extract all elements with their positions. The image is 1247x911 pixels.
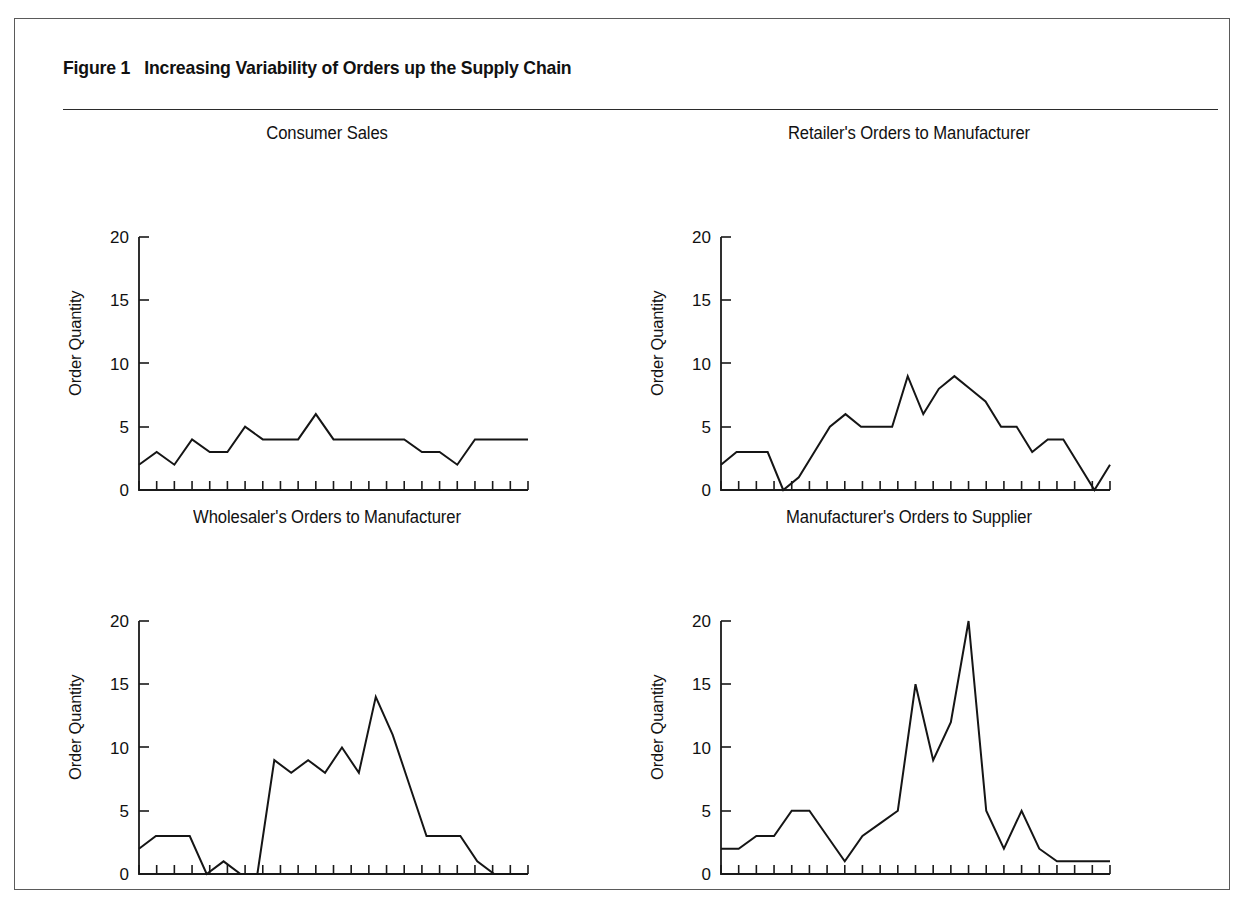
axes-0	[139, 237, 528, 490]
y-axis-label-0: Order Quantity	[66, 290, 84, 396]
data-series-wholesaler-orders	[139, 697, 528, 874]
figure-title-line: Figure 1Increasing Variability of Orders…	[63, 57, 1137, 79]
axes-2	[139, 621, 528, 874]
y-tick-20-3: 20	[692, 612, 711, 631]
chart-consumer-sales: Order Quantity 20 15 10 5 0 Time	[47, 151, 607, 501]
y-tick-20-0: 20	[110, 228, 129, 247]
y-axis-group-1: Order Quantity 20 15 10 5 0	[648, 228, 711, 500]
y-tick-15-2: 15	[110, 675, 129, 694]
chart-retailer-orders: Order Quantity 20 15 10 5 0 Time	[629, 151, 1189, 501]
y-tick-15-1: 15	[692, 291, 711, 310]
panel-retailer-orders: Retailer's Orders to Manufacturer Order …	[629, 123, 1189, 513]
x-ticks-3	[721, 865, 1110, 874]
y-tick-0-2: 0	[120, 865, 129, 884]
panel-manufacturer-orders: Manufacturer's Orders to Supplier Order …	[629, 507, 1189, 897]
axes-1	[721, 237, 1110, 490]
y-tick-0-0: 0	[120, 481, 129, 500]
axes-3	[721, 621, 1110, 874]
y-tick-20-2: 20	[110, 612, 129, 631]
y-tick-10-0: 10	[110, 355, 129, 374]
figure-title-text: Increasing Variability of Orders up the …	[144, 57, 571, 78]
y-axis-group-3: Order Quantity 20 15 10 5 0	[648, 612, 711, 884]
x-ticks-2	[139, 865, 528, 874]
panel-title-manufacturer-orders: Manufacturer's Orders to Supplier	[643, 507, 1175, 528]
panel-consumer-sales: Consumer Sales Order Quantity 20 15 10 5…	[47, 123, 607, 513]
figure-title-underline	[63, 109, 1218, 110]
y-ticks-0	[139, 237, 149, 427]
y-tick-20-1: 20	[692, 228, 711, 247]
panel-title-consumer-sales: Consumer Sales	[61, 123, 593, 144]
chart-manufacturer-orders: Order Quantity 20 15 10 5 0 Time	[629, 535, 1189, 885]
y-tick-15-0: 15	[110, 291, 129, 310]
figure-header: Figure 1Increasing Variability of Orders…	[63, 57, 1218, 95]
y-ticks-3	[721, 621, 731, 811]
y-axis-label-3: Order Quantity	[648, 674, 666, 780]
chart-wholesaler-orders: Order Quantity 20 15 10 5 0 Time	[47, 535, 607, 885]
y-ticks-2	[139, 621, 149, 811]
figure-number-label: Figure 1	[63, 57, 130, 78]
panel-grid: Consumer Sales Order Quantity 20 15 10 5…	[29, 119, 1245, 904]
y-ticks-1	[721, 237, 731, 427]
y-tick-5-2: 5	[120, 802, 129, 821]
data-series-manufacturer-orders	[721, 621, 1110, 861]
panel-wholesaler-orders: Wholesaler's Orders to Manufacturer Orde…	[47, 507, 607, 897]
y-tick-15-3: 15	[692, 675, 711, 694]
y-tick-10-2: 10	[110, 739, 129, 758]
y-tick-0-1: 0	[702, 481, 711, 500]
figure-frame: Figure 1Increasing Variability of Orders…	[14, 18, 1230, 890]
y-tick-10-3: 10	[692, 739, 711, 758]
y-axis-group-2: Order Quantity 20 15 10 5 0	[66, 612, 129, 884]
y-tick-5-0: 5	[120, 418, 129, 437]
panel-title-retailer-orders: Retailer's Orders to Manufacturer	[643, 123, 1175, 144]
y-tick-10-1: 10	[692, 355, 711, 374]
y-axis-label-2: Order Quantity	[66, 674, 84, 780]
y-tick-5-3: 5	[702, 802, 711, 821]
y-tick-0-3: 0	[702, 865, 711, 884]
data-series-retailer-orders	[721, 376, 1110, 490]
y-axis-group-0: Order Quantity 20 15 10 5 0	[66, 228, 129, 500]
panel-title-wholesaler-orders: Wholesaler's Orders to Manufacturer	[61, 507, 593, 528]
y-tick-5-1: 5	[702, 418, 711, 437]
x-ticks-0	[139, 481, 528, 490]
data-series-consumer-sales	[139, 414, 528, 465]
y-axis-label-1: Order Quantity	[648, 290, 666, 396]
